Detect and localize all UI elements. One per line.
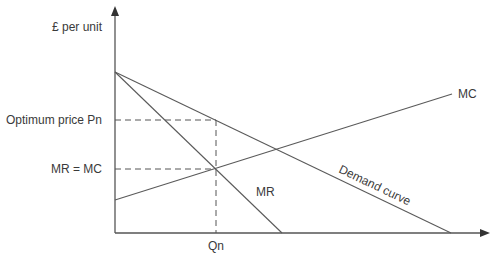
x-axis-arrow-icon	[480, 229, 490, 237]
optimum-price-label: Optimum price Pn	[6, 113, 102, 127]
demand-curve-label: Demand curve	[337, 162, 414, 208]
mc-curve	[115, 94, 452, 200]
mr-curve	[115, 72, 282, 233]
mr-label: MR	[256, 185, 275, 199]
mc-label: MC	[458, 87, 477, 101]
mr-equals-mc-label: MR = MC	[51, 162, 102, 176]
y-axis-arrow-icon	[111, 6, 119, 16]
quantity-label: Qn	[208, 239, 224, 253]
mr-mc-diagram: £ per unit Optimum price Pn MR = MC Qn M…	[0, 0, 495, 257]
y-axis-label: £ per unit	[52, 20, 103, 34]
demand-curve	[115, 72, 451, 233]
